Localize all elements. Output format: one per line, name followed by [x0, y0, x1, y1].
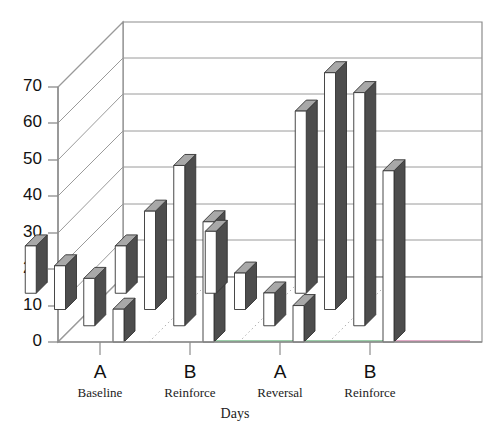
- bar-front-face: [235, 273, 246, 309]
- bar-side-face: [306, 100, 317, 293]
- bar-front-face: [55, 266, 66, 310]
- bar-side-face: [216, 220, 227, 293]
- y-tick-label-60: 60: [23, 112, 42, 131]
- bar-front-face: [293, 306, 304, 342]
- bar-front-face: [264, 293, 275, 326]
- y-tick-label-50: 50: [23, 149, 42, 168]
- bar-front-face: [205, 231, 216, 293]
- bar-front-face: [383, 171, 394, 342]
- bar-front-face: [84, 278, 95, 325]
- x-sublabel-group-1: Baseline: [78, 385, 123, 400]
- x-tick-label-group-3: A: [274, 361, 287, 382]
- y-tick-label-40: 40: [23, 185, 42, 204]
- bar: [205, 220, 227, 293]
- bar-front-face: [145, 211, 156, 309]
- bar: [354, 82, 376, 326]
- bar: [145, 200, 167, 309]
- bar: [55, 255, 77, 310]
- x-sublabel-group-4: Reinforce: [344, 385, 395, 400]
- bar-side-face: [365, 82, 376, 326]
- bar: [115, 235, 137, 293]
- bar: [235, 262, 257, 309]
- bar: [293, 295, 315, 342]
- x-axis-ticks: [100, 342, 370, 355]
- x-tick-label-group-1: A: [94, 361, 107, 382]
- bar-front-face: [25, 246, 36, 293]
- bar-front-face: [174, 165, 185, 325]
- y-axis: 70 60 50 40 30 20 10 0: [23, 76, 58, 350]
- bar: [25, 235, 47, 293]
- bar-side-face: [156, 200, 167, 309]
- x-sublabel-group-3: Reversal: [257, 385, 303, 400]
- bar-front-face: [325, 73, 336, 310]
- x-axis-title: Days: [221, 406, 250, 421]
- chart-container: 70 60 50 40 30 20 10 0 A B A B Baseline: [0, 0, 500, 424]
- y-tick-label-70: 70: [23, 76, 42, 95]
- bar: [295, 100, 317, 293]
- x-axis: A B A B Baseline Reinforce Reversal Rein…: [58, 342, 482, 421]
- bar-front-face: [113, 309, 124, 342]
- x-tick-label-group-4: B: [364, 361, 377, 382]
- bar-side-face: [394, 160, 405, 342]
- x-tick-label-group-2: B: [184, 361, 197, 382]
- bar-front-face: [295, 111, 306, 293]
- bar-chart-3d: 70 60 50 40 30 20 10 0 A B A B Baseline: [0, 0, 500, 424]
- y-tick-label-0: 0: [33, 331, 42, 350]
- bar: [174, 154, 196, 325]
- y-tick-label-10: 10: [23, 295, 42, 314]
- bar-front-face: [115, 246, 126, 293]
- bar-front-face: [354, 93, 365, 326]
- bar-side-face: [336, 62, 347, 310]
- bar: [383, 160, 405, 342]
- bar: [84, 267, 106, 325]
- bar: [325, 62, 347, 310]
- bar-side-face: [185, 154, 196, 325]
- x-sublabel-group-2: Reinforce: [164, 385, 215, 400]
